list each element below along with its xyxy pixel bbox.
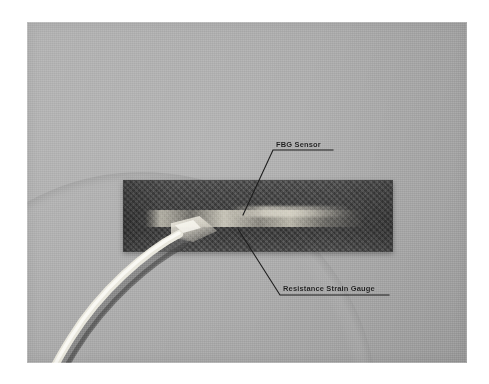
annotation-layer — [0, 0, 489, 384]
figure-root: FBG Sensor Resistance Strain Gauge — [0, 0, 489, 384]
fbg-sensor-label: FBG Sensor — [276, 140, 321, 149]
fbg-sensor-leader — [243, 150, 333, 215]
resistance-strain-gauge-label: Resistance Strain Gauge — [283, 284, 375, 293]
